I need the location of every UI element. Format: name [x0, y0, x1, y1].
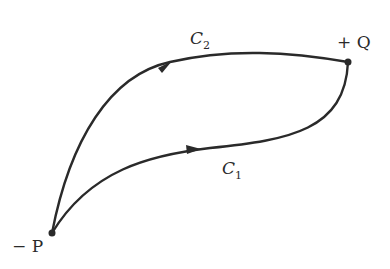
label-c1: C1: [222, 158, 242, 178]
label-p: − P: [12, 236, 43, 256]
arrow-c1-icon: [186, 145, 201, 154]
point-p: [49, 230, 56, 237]
label-q: + Q: [337, 32, 371, 52]
curve-c2: [52, 53, 348, 233]
point-q: [345, 59, 352, 66]
label-c2: C2: [190, 28, 210, 48]
curve-c1: [52, 62, 348, 233]
